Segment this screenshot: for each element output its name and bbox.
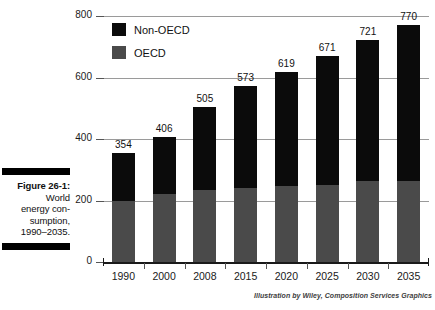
bar-segment-non-oecd-2000[interactable] [153, 137, 176, 194]
x-tick-mark-1 [144, 263, 145, 269]
bar-2015[interactable] [234, 86, 257, 262]
bar-value-label-1990: 354 [101, 139, 145, 150]
chart-legend: Non-OECD OECD [112, 20, 190, 66]
bar-segment-oecd-2025[interactable] [316, 185, 339, 262]
bar-value-label-2015: 573 [224, 72, 268, 83]
y-tick-label-200: 200 [58, 194, 92, 205]
legend-label-non-oecd: Non-OECD [134, 24, 190, 36]
x-tick-mark-4 [266, 263, 267, 269]
x-tick-mark-5 [307, 263, 308, 269]
x-tick-label-1990: 1990 [101, 270, 145, 282]
legend-item-non-oecd: Non-OECD [112, 20, 190, 39]
y-axis-end-cap [103, 258, 104, 266]
x-tick-mark-3 [225, 263, 226, 269]
bar-segment-non-oecd-2008[interactable] [193, 107, 216, 190]
bar-2000[interactable] [153, 137, 176, 262]
bar-value-label-2030: 721 [346, 26, 390, 37]
y-tick-label-0: 0 [58, 255, 92, 266]
bar-segment-oecd-2035[interactable] [397, 181, 420, 262]
x-tick-mark-7 [388, 263, 389, 269]
bar-value-label-2000: 406 [142, 123, 186, 134]
bar-2020[interactable] [275, 72, 298, 262]
x-tick-mark-6 [348, 263, 349, 269]
bar-value-label-2020: 619 [264, 58, 308, 69]
bar-2030[interactable] [356, 40, 379, 262]
bar-segment-non-oecd-2025[interactable] [316, 56, 339, 185]
x-tick-label-2035: 2035 [387, 270, 431, 282]
bar-2008[interactable] [193, 107, 216, 262]
bar-segment-non-oecd-2030[interactable] [356, 40, 379, 181]
bar-segment-oecd-2030[interactable] [356, 181, 379, 262]
bar-2035[interactable] [397, 25, 420, 262]
x-tick-label-2025: 2025 [305, 270, 349, 282]
bar-segment-oecd-1990[interactable] [112, 201, 135, 262]
y-tick-label-400: 400 [58, 132, 92, 143]
bar-segment-oecd-2000[interactable] [153, 194, 176, 262]
bar-1990[interactable] [112, 153, 135, 262]
legend-swatch-oecd-icon [112, 46, 126, 59]
y-tick-mark-200 [96, 201, 104, 202]
bar-segment-oecd-2008[interactable] [193, 190, 216, 262]
y-tick-mark-800 [96, 16, 104, 17]
x-tick-mark-2 [185, 263, 186, 269]
x-tick-label-2030: 2030 [346, 270, 390, 282]
x-tick-label-2000: 2000 [142, 270, 186, 282]
legend-label-oecd: OECD [134, 47, 166, 59]
bar-segment-oecd-2015[interactable] [234, 188, 257, 262]
bar-chart: 0200400600800 354406505573619671721770 1… [0, 0, 435, 310]
y-tick-mark-600 [96, 78, 104, 79]
bar-value-label-2008: 505 [183, 93, 227, 104]
x-tick-label-2008: 2008 [183, 270, 227, 282]
bar-segment-non-oecd-2015[interactable] [234, 86, 257, 188]
illustration-credit: Illustration by Wiley, Composition Servi… [254, 292, 432, 299]
gridline-800 [103, 16, 429, 17]
bar-2025[interactable] [316, 56, 339, 262]
bar-segment-non-oecd-2035[interactable] [397, 25, 420, 180]
bar-segment-oecd-2020[interactable] [275, 186, 298, 262]
x-tick-label-2015: 2015 [224, 270, 268, 282]
x-tick-label-2020: 2020 [264, 270, 308, 282]
y-tick-label-800: 800 [58, 9, 92, 20]
legend-item-oecd: OECD [112, 43, 190, 62]
bar-segment-non-oecd-2020[interactable] [275, 72, 298, 186]
figure-page: Figure 26-1: World energy con- sumption,… [0, 0, 435, 310]
x-axis-right-cap [428, 258, 429, 266]
y-tick-label-600: 600 [58, 71, 92, 82]
legend-swatch-non-oecd-icon [112, 23, 126, 36]
bar-value-label-2025: 671 [305, 42, 349, 53]
bar-segment-non-oecd-1990[interactable] [112, 153, 135, 201]
bar-value-label-2035: 770 [387, 11, 431, 22]
